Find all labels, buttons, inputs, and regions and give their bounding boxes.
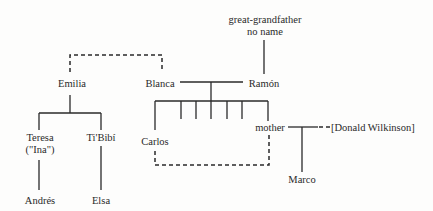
- node-marco: Marco: [288, 174, 315, 186]
- node-tibibi: Ti'Bibí: [87, 132, 116, 144]
- node-blanca: Blanca: [145, 78, 174, 90]
- node-mother: mother: [255, 122, 285, 134]
- node-emilia: Emilia: [58, 78, 86, 90]
- node-great-grandfather-note: no name: [247, 26, 283, 38]
- dashed-emilia-blanca: [70, 55, 162, 72]
- node-carlos: Carlos: [141, 136, 168, 148]
- node-great-grandfather: great-grandfather: [229, 14, 302, 26]
- node-teresa: Teresa: [26, 132, 53, 144]
- node-donald-wilkinson: [Donald Wilkinson]: [331, 122, 415, 134]
- node-teresa-nickname: ("Ina"): [26, 144, 55, 156]
- dashed-carlos-mother: [155, 134, 269, 165]
- node-ramon: Ramón: [249, 78, 279, 90]
- node-andres: Andrés: [25, 195, 55, 207]
- tree-connectors: [0, 0, 433, 211]
- node-elsa: Elsa: [92, 195, 110, 207]
